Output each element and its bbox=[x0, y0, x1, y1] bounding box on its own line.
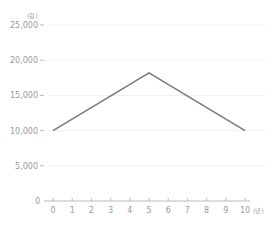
x-tick-label: 6 bbox=[166, 206, 171, 215]
x-unit-label: (년) bbox=[253, 207, 264, 214]
gridlines bbox=[48, 25, 265, 166]
y-tick-label: 0 bbox=[35, 197, 40, 206]
x-tick-label: 7 bbox=[185, 206, 190, 215]
y-tick-label: 20,000 bbox=[10, 56, 38, 65]
x-tick-label: 0 bbox=[50, 206, 55, 215]
y-axis: 05,00010,00015,00020,00025,000 bbox=[10, 21, 44, 206]
x-axis: 012345678910 bbox=[44, 198, 250, 215]
y-tick-label: 15,000 bbox=[10, 91, 38, 100]
y-tick-label: 5,000 bbox=[15, 162, 38, 171]
data-line bbox=[53, 73, 245, 131]
line-chart: 05,00010,00015,00020,00025,000 012345678… bbox=[0, 0, 279, 229]
x-tick-label: 3 bbox=[108, 206, 113, 215]
x-tick-label: 1 bbox=[70, 206, 75, 215]
x-tick-label: 4 bbox=[127, 206, 132, 215]
x-tick-label: 10 bbox=[240, 206, 250, 215]
x-tick-label: 9 bbox=[223, 206, 228, 215]
y-unit-label: (원) bbox=[27, 12, 38, 19]
x-tick-label: 2 bbox=[89, 206, 94, 215]
x-tick-label: 8 bbox=[204, 206, 209, 215]
x-tick-label: 5 bbox=[146, 206, 151, 215]
y-tick-label: 10,000 bbox=[10, 127, 38, 136]
y-tick-label: 25,000 bbox=[10, 21, 38, 30]
